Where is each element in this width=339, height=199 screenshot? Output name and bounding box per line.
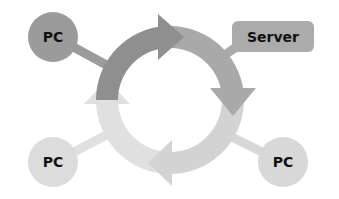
node-pc-top-left: PC xyxy=(28,12,78,62)
node-label: PC xyxy=(43,29,64,45)
network-cycle-diagram: PC Server PC PC xyxy=(0,0,339,199)
node-label: Server xyxy=(247,29,299,45)
cycle-arrow-top-left xyxy=(96,14,184,100)
node-label: PC xyxy=(273,154,294,170)
node-pc-bottom-right: PC xyxy=(258,137,308,187)
cycle-arrow-bottom-right xyxy=(148,100,244,186)
node-pc-bottom-left: PC xyxy=(28,137,78,187)
node-label: PC xyxy=(43,154,64,170)
node-server: Server xyxy=(232,21,314,52)
